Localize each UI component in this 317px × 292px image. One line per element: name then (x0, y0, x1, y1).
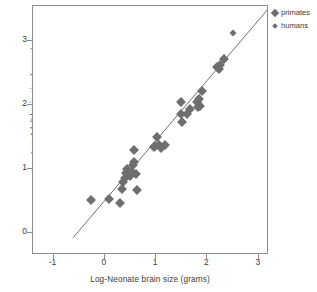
legend-label: primates (281, 9, 310, 17)
legend-item-primates[interactable]: primates (272, 8, 317, 18)
legend-diamond-icon (272, 23, 278, 29)
regression-line (33, 6, 267, 253)
x-tick-label: 1 (143, 258, 167, 266)
scatter-plot-figure: Log-Adult brain size (grams) 0123 -10123… (0, 0, 317, 292)
y-tick-label: 3 (3, 35, 27, 43)
chart-legend: primateshumans (272, 8, 317, 34)
x-tick-label: 2 (194, 258, 218, 266)
y-tick-label: 0 (3, 227, 27, 235)
x-tick-mark (258, 254, 259, 259)
y-tick-label: 1 (3, 163, 27, 171)
x-axis-title: Log-Neonate brain size (grams) (32, 275, 268, 284)
plot-area (33, 6, 267, 253)
legend-item-humans[interactable]: humans (272, 21, 317, 31)
y-tick-label: 2 (3, 99, 27, 107)
x-tick-label: 0 (92, 258, 116, 266)
x-tick-mark (53, 254, 54, 259)
x-tick-mark (104, 254, 105, 259)
x-tick-mark (206, 254, 207, 259)
x-tick-label: -1 (41, 258, 65, 266)
plot-frame (32, 5, 268, 254)
legend-diamond-icon (271, 9, 279, 17)
legend-label: humans (281, 22, 308, 30)
x-tick-mark (155, 254, 156, 259)
x-tick-label: 3 (246, 258, 270, 266)
